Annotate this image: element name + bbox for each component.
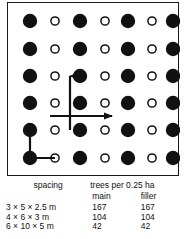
filler-tree-marker [51,17,59,25]
figure-page: spacing trees per 0.25 ha main filler 3 … [0,0,185,239]
grid-row [23,14,180,28]
main-tree-marker [23,69,37,83]
main-tree-marker [121,96,135,110]
filler-tree-marker [148,126,156,134]
header-trees-per-area: trees per 0.25 ha [90,181,185,192]
filler-tree-marker [148,154,156,162]
filler-tree-marker [148,72,156,80]
filler-tree-marker [148,99,156,107]
filler-tree-marker [51,126,59,134]
main-tree-marker [166,151,180,165]
spacing-table: spacing trees per 0.25 ha main filler 3 … [0,181,185,232]
table-header-row: spacing trees per 0.25 ha [0,181,185,192]
filler-tree-marker [101,154,109,162]
filler-tree-marker [101,17,109,25]
cell-main: 42 [90,222,137,232]
table-row: 6 × 10 × 5 m 42 42 [0,222,185,232]
main-tree-marker [23,42,37,56]
filler-tree-marker [148,45,156,53]
header-spacing: spacing [0,181,90,192]
main-tree-marker [166,123,180,137]
grid-row [23,123,180,137]
filler-tree-marker [101,45,109,53]
main-tree-marker [73,96,87,110]
main-tree-marker [121,151,135,165]
planting-diagram [8,3,180,177]
main-tree-marker [73,151,87,165]
main-tree-marker [73,69,87,83]
main-tree-marker [73,123,87,137]
filler-tree-marker [51,72,59,80]
spacing-table-block: spacing trees per 0.25 ha main filler 3 … [0,181,185,239]
main-tree-marker [121,123,135,137]
cell-filler: 42 [138,222,185,232]
planting-diagram-panel [7,2,179,176]
main-tree-marker [23,14,37,28]
main-tree-marker [23,96,37,110]
filler-tree-marker [51,99,59,107]
grid-row [23,96,180,110]
main-tree-marker [166,14,180,28]
filler-tree-marker [101,126,109,134]
main-tree-marker [121,42,135,56]
main-tree-marker [166,96,180,110]
filler-tree-marker [101,99,109,107]
main-tree-marker [73,42,87,56]
filler-tree-marker [51,45,59,53]
filler-tree-marker [101,72,109,80]
main-tree-marker [121,69,135,83]
main-tree-marker [166,42,180,56]
grid-row [23,42,180,56]
main-tree-marker [73,14,87,28]
cell-spacing: 6 × 10 × 5 m [0,222,90,232]
grid-row [23,69,180,83]
filler-tree-marker [148,17,156,25]
main-tree-marker [166,69,180,83]
main-tree-marker [121,14,135,28]
